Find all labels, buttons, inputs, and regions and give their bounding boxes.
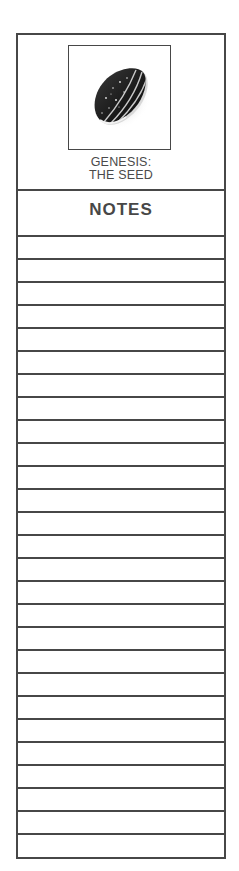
- notes-label: NOTES: [89, 200, 153, 220]
- note-line: [18, 421, 224, 444]
- note-line: [18, 559, 224, 582]
- seed-image-frame: [68, 45, 171, 150]
- note-line: [18, 306, 224, 329]
- note-line: [18, 674, 224, 697]
- note-line: [18, 766, 224, 789]
- note-line: [18, 605, 224, 628]
- note-line: [18, 835, 224, 856]
- note-lines: [18, 237, 224, 856]
- bookmark-title: GENESIS: THE SEED: [18, 156, 224, 182]
- note-line: [18, 352, 224, 375]
- note-line: [18, 513, 224, 536]
- notes-header: NOTES: [18, 191, 224, 237]
- note-line: [18, 720, 224, 743]
- bookmark-header: GENESIS: THE SEED: [18, 35, 224, 191]
- note-line: [18, 375, 224, 398]
- note-line: [18, 536, 224, 559]
- sunflower-seed-icon: [80, 58, 160, 138]
- note-line: [18, 743, 224, 766]
- note-line: [18, 444, 224, 467]
- note-line: [18, 260, 224, 283]
- note-line: [18, 398, 224, 421]
- note-line: [18, 283, 224, 306]
- note-line: [18, 628, 224, 651]
- note-line: [18, 237, 224, 260]
- note-line: [18, 467, 224, 490]
- note-line: [18, 697, 224, 720]
- note-line: [18, 812, 224, 835]
- note-line: [18, 582, 224, 605]
- note-line: [18, 490, 224, 513]
- note-line: [18, 651, 224, 674]
- note-line: [18, 789, 224, 812]
- title-line-2: THE SEED: [18, 169, 224, 182]
- bookmark-card: GENESIS: THE SEED NOTES: [16, 33, 226, 859]
- note-line: [18, 329, 224, 352]
